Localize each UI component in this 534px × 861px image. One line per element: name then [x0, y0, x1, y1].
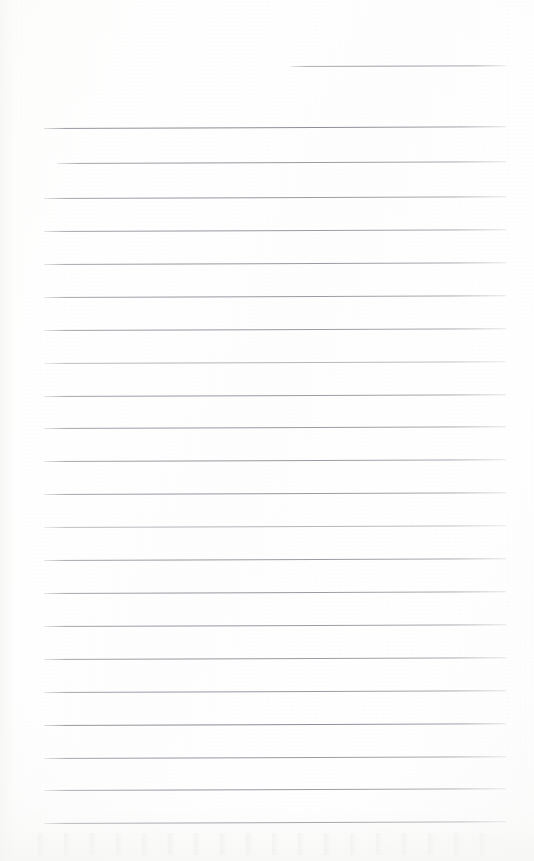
scanned-page: A scanned blank sheet of ruled notepaper…	[0, 0, 534, 861]
paper-background	[0, 0, 534, 861]
